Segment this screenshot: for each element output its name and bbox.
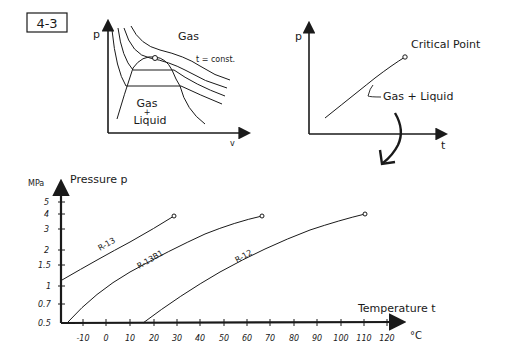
pt-critical-point-label: Critical Point xyxy=(411,38,481,51)
svg-text:5: 5 xyxy=(44,198,49,207)
svg-text:0.7: 0.7 xyxy=(38,300,52,309)
svg-text:70: 70 xyxy=(265,334,275,343)
pv-isotherm-label: t = const. xyxy=(196,55,235,64)
svg-text:100: 100 xyxy=(333,334,348,343)
pv-y-label: p xyxy=(93,28,100,41)
x-title: Temperature t xyxy=(357,302,436,315)
pv-diagram: p v Gas t = const. Gas + Liquid xyxy=(93,22,248,148)
svg-text:2: 2 xyxy=(44,246,49,255)
svg-text:10: 10 xyxy=(125,334,135,343)
svg-text:1: 1 xyxy=(46,282,51,291)
svg-text:-10: -10 xyxy=(76,334,89,343)
pv-x-label: v xyxy=(230,139,235,148)
curve-r13 xyxy=(62,216,174,280)
svg-text:60: 60 xyxy=(242,334,252,343)
curved-arrow-icon xyxy=(380,113,401,164)
svg-text:50: 50 xyxy=(219,334,229,343)
pt-curve-pointer xyxy=(368,85,381,97)
svg-text:4: 4 xyxy=(44,210,49,219)
svg-text:110: 110 xyxy=(356,334,371,343)
curve-r13b1 xyxy=(68,216,262,322)
y-unit: MPa xyxy=(28,179,44,188)
pv-gas-label: Gas xyxy=(178,30,199,43)
figure-label-text: 4-3 xyxy=(36,16,57,31)
critical-point-marker xyxy=(153,56,158,61)
svg-text:20: 20 xyxy=(149,334,159,343)
pt-critical-point-marker xyxy=(403,55,407,59)
curve-label-r13b1: R-13B1 xyxy=(136,248,166,270)
diagram-canvas: 4-3 p v Gas t = const. Gas + Liquid p t … xyxy=(0,0,512,364)
curve-r12 xyxy=(143,214,365,323)
svg-text:0: 0 xyxy=(103,334,108,343)
y-title: Pressure p xyxy=(70,173,127,186)
svg-text:1.5: 1.5 xyxy=(38,261,51,270)
svg-text:80: 80 xyxy=(289,334,299,343)
svg-text:40: 40 xyxy=(195,334,205,343)
svg-text:90: 90 xyxy=(312,334,322,343)
svg-text:30: 30 xyxy=(172,334,182,343)
figure-label: 4-3 xyxy=(27,13,67,32)
r12-critical-point xyxy=(363,212,367,216)
main-x-axis xyxy=(61,322,402,323)
curve-label-r12: R-12 xyxy=(234,248,254,265)
main-chart: MPa Pressure p Temperature t °C 5 4 3 2 … xyxy=(28,173,436,343)
r13-critical-point xyxy=(172,214,176,218)
pv-two-phase-line3: Liquid xyxy=(133,114,166,127)
svg-text:120: 120 xyxy=(379,334,394,343)
x-unit: °C xyxy=(410,330,422,341)
pt-diagram: p t Critical Point Gas + Liquid xyxy=(295,24,481,152)
pt-y-label: p xyxy=(295,30,302,43)
r13b1-critical-point xyxy=(260,214,264,218)
svg-text:0.5: 0.5 xyxy=(38,319,51,328)
pt-vapor-curve xyxy=(325,57,405,118)
svg-text:3: 3 xyxy=(44,225,49,234)
pt-x-label: t xyxy=(441,139,446,152)
pt-curve-label: Gas + Liquid xyxy=(383,90,453,103)
